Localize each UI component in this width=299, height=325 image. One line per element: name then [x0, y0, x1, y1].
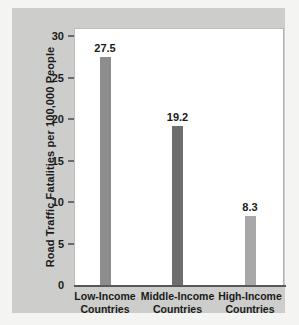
category-label: High-IncomeCountries	[205, 290, 295, 315]
bar-value-label: 8.3	[225, 201, 275, 213]
chart-panel: Road Traffic Fatalities per 100,000 Peop…	[12, 8, 285, 313]
category-label-line: Countries	[205, 303, 295, 316]
category-label-line: High-Income	[205, 290, 295, 303]
chart-figure: Road Traffic Fatalities per 100,000 Peop…	[0, 0, 299, 325]
bar	[172, 126, 183, 285]
bar-value-label: 19.2	[153, 111, 203, 123]
bars-layer: 27.5Low-IncomeCountries19.2Middle-Income…	[12, 8, 299, 325]
bar-value-label: 27.5	[80, 42, 130, 54]
bar	[100, 57, 111, 285]
bar	[245, 216, 256, 285]
